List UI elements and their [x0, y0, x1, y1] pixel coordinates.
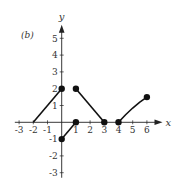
segment-4: [119, 97, 147, 122]
x-axis-arrow-icon: [155, 120, 163, 126]
x-tick-label: 5: [130, 125, 136, 135]
y-tick-label: -1: [49, 134, 58, 144]
segment-3: [76, 89, 104, 123]
x-axis-label: x: [166, 117, 172, 128]
filled-point-icon: [73, 86, 79, 92]
y-tick-label: 5: [52, 34, 58, 44]
x-tick-label: 6: [144, 125, 150, 135]
y-tick-label: 4: [52, 50, 58, 60]
y-tick-label: 1: [52, 101, 58, 111]
filled-point-icon: [73, 119, 79, 125]
y-tick-label: -2: [49, 151, 58, 161]
x-tick-label: -2: [29, 125, 38, 135]
filled-point-icon: [115, 119, 121, 125]
x-tick-label: 4: [116, 125, 122, 135]
y-axis-arrow-icon: [59, 25, 65, 33]
y-tick-label: 3: [52, 67, 58, 77]
y-tick-label: 2: [52, 84, 58, 94]
x-tick-label: -3: [15, 125, 24, 135]
filled-point-icon: [59, 136, 65, 142]
filled-point-icon: [101, 119, 107, 125]
x-tick-label: 2: [87, 125, 93, 135]
filled-point-icon: [59, 86, 65, 92]
filled-point-icon: [144, 94, 150, 100]
y-axis-label: y: [58, 11, 65, 22]
function-graph: -3-2-112345654321-1-2-3 x y (b): [0, 0, 181, 186]
panel-label: (b): [21, 30, 34, 40]
x-tick-label: 1: [73, 125, 79, 135]
y-tick-label: -3: [49, 168, 58, 178]
ticks: -3-2-112345654321-1-2-3: [15, 34, 150, 178]
x-tick-label: 3: [101, 125, 107, 135]
